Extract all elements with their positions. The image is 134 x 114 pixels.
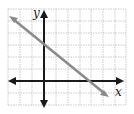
x-axis bbox=[8, 77, 124, 85]
y-axis-up-arrow-icon bbox=[40, 10, 48, 18]
x-axis-left-arrow-icon bbox=[8, 77, 16, 85]
line-graph: y x bbox=[0, 0, 134, 114]
data-line bbox=[9, 16, 109, 97]
y-axis-down-arrow-icon bbox=[40, 100, 48, 108]
y-axis-label: y bbox=[32, 6, 40, 20]
grid bbox=[8, 9, 126, 105]
x-axis-label: x bbox=[115, 85, 122, 99]
x-axis-right-arrow-icon bbox=[116, 77, 124, 85]
